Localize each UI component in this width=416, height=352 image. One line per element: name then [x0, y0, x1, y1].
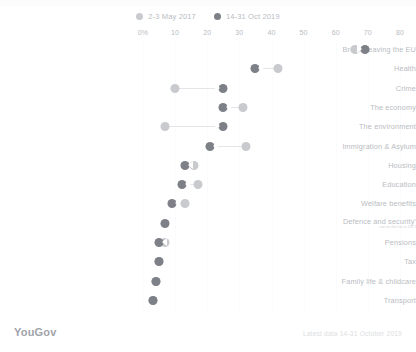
chart-row[interactable]: Britain leaving the EU — [0, 40, 416, 59]
axis-tick-80: 80 — [396, 29, 404, 36]
arrow-head-icon — [162, 238, 167, 246]
chart-row[interactable]: Health — [0, 59, 416, 78]
chart-row[interactable]: The economy — [0, 98, 416, 117]
axis-tick-60: 60 — [332, 29, 340, 36]
chart-row[interactable]: Education — [0, 175, 416, 194]
yougov-logo: YouGov — [14, 326, 57, 338]
arrow-head-icon — [185, 180, 190, 188]
row-label: Housing — [279, 156, 416, 175]
legend-item-2017[interactable]: 2-3 May 2017 — [136, 12, 196, 21]
data-point-2019[interactable] — [161, 219, 170, 228]
axis-tick-30: 30 — [235, 29, 243, 36]
chart-row[interactable]: Housing — [0, 156, 416, 175]
arrow-head-icon — [175, 199, 180, 207]
axis-tick-70: 70 — [364, 29, 372, 36]
row-label: The economy — [279, 98, 416, 117]
plot-area: Britain leaving the EUHealthCrimeThe eco… — [0, 40, 416, 322]
arrow-head-icon — [357, 45, 362, 53]
legend-label-2017: 2-3 May 2017 — [148, 12, 196, 21]
data-point-2017[interactable] — [241, 142, 250, 151]
top-strip — [0, 0, 416, 6]
arrow-head-icon — [258, 64, 263, 72]
legend-item-2019[interactable]: 14-31 Oct 2019 — [214, 12, 280, 21]
legend-swatch-2017 — [136, 13, 143, 20]
chart-legend: 2-3 May 2017 14-31 Oct 2019 — [0, 12, 416, 21]
row-label: Tax — [279, 252, 416, 271]
row-label: Pensions — [279, 233, 416, 252]
x-axis: 0%1020304050607080 — [0, 29, 416, 40]
chart-row[interactable]: Pensions — [0, 233, 416, 252]
row-label: Family life & childcare — [279, 272, 416, 291]
data-point-2019[interactable] — [155, 257, 164, 266]
row-label: Health — [279, 59, 416, 78]
chart-footer: YouGov Latest data 14-31 October 2019 — [0, 318, 416, 352]
row-label: Welfare benefits — [279, 194, 416, 213]
data-point-2019[interactable] — [151, 277, 160, 286]
chart-row[interactable]: Welfare benefits — [0, 194, 416, 213]
axis-tick-40: 40 — [267, 29, 275, 36]
axis-tick-20: 20 — [203, 29, 211, 36]
data-point-2017[interactable] — [238, 103, 247, 112]
chart-row[interactable]: Family life & childcare — [0, 272, 416, 291]
chart-row[interactable]: Crime — [0, 79, 416, 98]
chart-row[interactable]: Defence and security'not on the list in … — [0, 214, 416, 233]
arrow-head-icon — [215, 84, 220, 92]
data-point-2017[interactable] — [161, 122, 170, 131]
chart-row[interactable]: The environment — [0, 117, 416, 136]
axis-tick-10: 10 — [171, 29, 179, 36]
arrow-head-icon — [213, 142, 218, 150]
data-point-2017[interactable] — [273, 64, 282, 73]
row-label-note: not on the list in 2017 — [279, 225, 416, 230]
source-note: Latest data 14-31 October 2019 — [303, 330, 402, 337]
data-point-2017[interactable] — [193, 180, 202, 189]
row-label: Britain leaving the EU — [279, 40, 416, 59]
chart-row[interactable]: Tax — [0, 252, 416, 271]
data-point-2017[interactable] — [180, 199, 189, 208]
legend-swatch-2019 — [214, 13, 221, 20]
row-label: Crime — [279, 79, 416, 98]
row-label: Immigration & Asylum — [279, 137, 416, 156]
row-label: The environment — [279, 117, 416, 136]
chart-row[interactable]: Transport — [0, 291, 416, 310]
data-point-2019[interactable] — [148, 296, 157, 305]
row-label: Education — [279, 175, 416, 194]
arrow-head-icon — [226, 103, 231, 111]
chart-row[interactable]: Immigration & Asylum — [0, 137, 416, 156]
axis-tick-50: 50 — [300, 29, 308, 36]
row-label: Transport — [279, 291, 416, 310]
axis-tick-0: 0% — [138, 29, 149, 36]
data-point-2017[interactable] — [171, 84, 180, 93]
chart-root: 2-3 May 2017 14-31 Oct 2019 0%1020304050… — [0, 0, 416, 352]
arrow-head-icon — [215, 122, 220, 130]
legend-label-2019: 14-31 Oct 2019 — [226, 12, 280, 21]
arrow-head-icon — [188, 161, 193, 169]
